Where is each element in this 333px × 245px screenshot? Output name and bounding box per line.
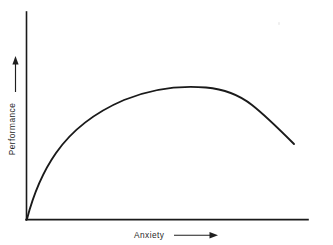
y-axis-label-text: Performance xyxy=(8,103,16,155)
chart-figure: Performance Anxiety xyxy=(0,0,333,245)
chart-plot-area xyxy=(0,0,333,245)
scan-artifact-speck xyxy=(278,22,280,25)
x-axis-arrow-icon xyxy=(174,232,218,238)
y-axis-label: Performance xyxy=(5,96,19,162)
x-axis-label: Anxiety xyxy=(134,231,164,239)
performance-anxiety-curve xyxy=(27,87,294,219)
y-axis-arrow-icon xyxy=(12,56,18,92)
